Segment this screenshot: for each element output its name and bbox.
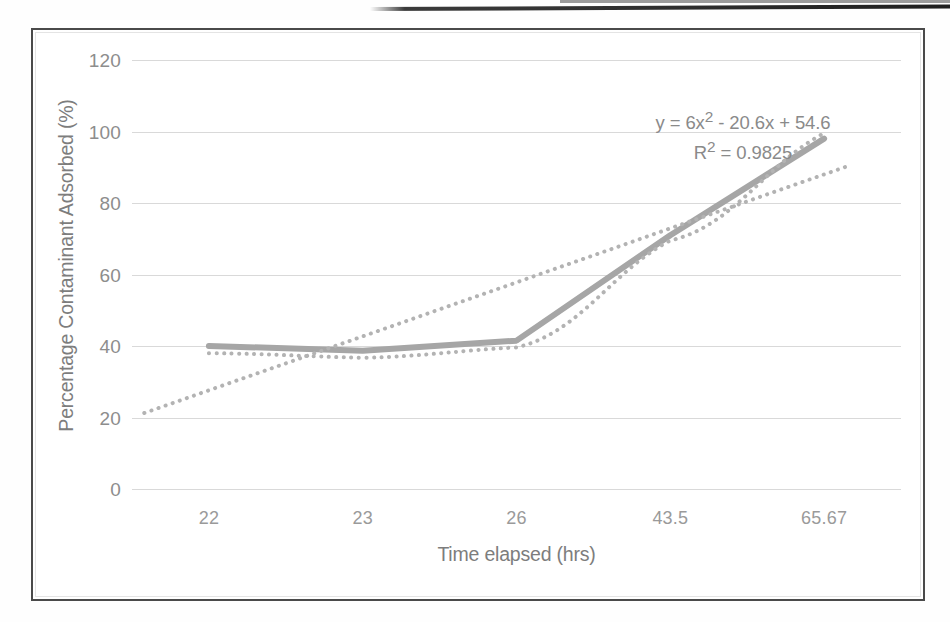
y-axis-title: Percentage Contaminant Adsorbed (%): [55, 66, 78, 466]
scan-artifact-line-upper: [560, 0, 950, 3]
trendline-equation-line: y = 6x2 - 20.6x + 54.6: [598, 106, 888, 136]
trendline-1: [209, 133, 824, 358]
r-squared-text: R: [694, 143, 707, 164]
plot-area: 020406080100120 22232643.565.67 Percenta…: [33, 30, 927, 603]
equation-text: y = 6x: [655, 112, 704, 133]
chart-figure-frame: 020406080100120 22232643.565.67 Percenta…: [31, 28, 925, 601]
data-series-line: [209, 139, 824, 351]
r-squared-line: R2 = 0.9825: [598, 136, 888, 166]
r-squared-text-tail: = 0.9825: [715, 143, 792, 164]
x-axis-title: Time elapsed (hrs): [132, 543, 901, 566]
trendline-equation-annotation: y = 6x2 - 20.6x + 54.6 R2 = 0.9825: [598, 106, 888, 167]
equation-exponent: 2: [705, 108, 713, 125]
equation-text-tail: - 20.6x + 54.6: [713, 112, 830, 133]
scan-artifact-line: [370, 4, 950, 11]
scanned-page: 020406080100120 22232643.565.67 Percenta…: [0, 0, 950, 622]
trendline-2: [144, 165, 851, 413]
